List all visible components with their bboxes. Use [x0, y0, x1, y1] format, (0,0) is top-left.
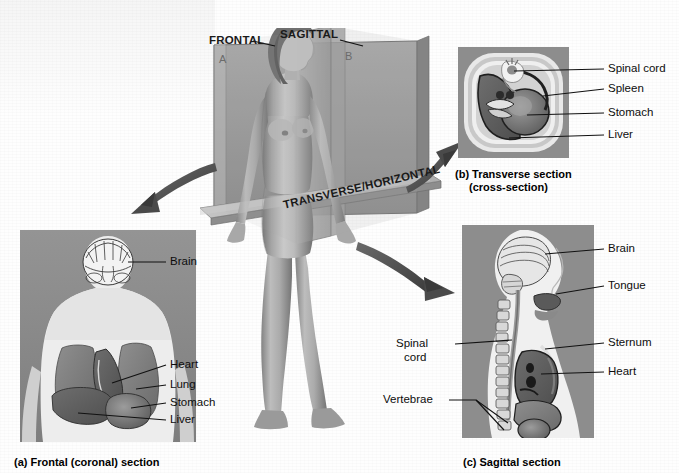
label-heart-c: Heart [608, 365, 636, 379]
panel-b-image [458, 47, 604, 158]
label-liver-b: Liver [608, 128, 633, 142]
quadrant-marker-b: B [345, 50, 352, 63]
label-lung-a: Lung [170, 378, 196, 392]
plane-label-frontal: FRONTAL [209, 34, 264, 48]
label-spleen-b: Spleen [608, 82, 644, 96]
figure-artwork [0, 0, 679, 473]
panel-c-image [449, 225, 604, 441]
frontal-plane-overlay-right [331, 26, 417, 236]
central-model-group [200, 21, 441, 429]
arrow-to-frontal-panel [131, 163, 217, 214]
arrow-to-sagittal-panel [356, 242, 455, 301]
label-spinal-c: Spinal [396, 337, 428, 351]
caption-panel-b: (b) Transverse section (cross-section) [455, 168, 572, 194]
anatomy-planes-figure: FRONTAL SAGITTAL TRANSVERSE/HORIZONTAL A… [0, 0, 679, 473]
label-sternum-c: Sternum [608, 336, 651, 350]
caption-panel-c: (c) Sagittal section [463, 456, 561, 469]
label-heart-a: Heart [170, 358, 198, 372]
label-tongue-c: Tongue [608, 279, 646, 293]
label-liver-a: Liver [170, 413, 195, 427]
label-brain-a: Brain [170, 255, 197, 269]
label-stomach-b: Stomach [608, 106, 653, 120]
label-brain-c: Brain [608, 242, 635, 256]
label-vertebrae-c: Vertebrae [383, 393, 433, 407]
label-spinal-cord-b: Spinal cord [608, 62, 666, 76]
label-cord-c: cord [404, 351, 426, 365]
label-stomach-a: Stomach [170, 396, 215, 410]
plane-label-sagittal: SAGITTAL [280, 28, 338, 42]
sagittal-plane-overlay [297, 26, 331, 244]
caption-panel-b-line1: (b) Transverse section [455, 168, 572, 180]
caption-panel-b-line2: (cross-section) [455, 181, 572, 194]
quadrant-marker-a: A [219, 53, 226, 66]
caption-panel-a: (a) Frontal (coronal) section [14, 456, 159, 469]
